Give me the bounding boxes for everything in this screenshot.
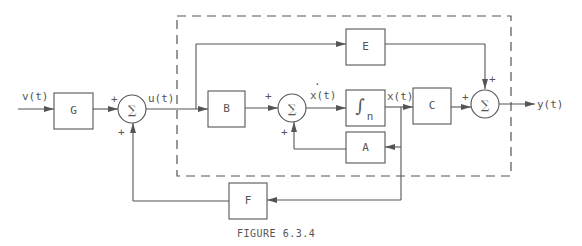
arrowhead — [108, 106, 118, 112]
signal-y: y(t) — [537, 98, 564, 111]
integrator-subscript: n — [367, 110, 374, 123]
arrowhead — [403, 104, 413, 110]
sum2-plus-bottom: + — [281, 126, 288, 139]
arrowhead — [525, 101, 535, 107]
sum1-plus-bottom: + — [118, 126, 125, 139]
arrowhead — [130, 123, 136, 133]
sum2-symbol: ∑ — [288, 102, 297, 116]
signal-x: x(t) — [387, 90, 414, 103]
integrator-symbol: ∫ — [355, 95, 365, 116]
sum3-symbol: ∑ — [481, 98, 490, 112]
block-a-label: A — [362, 141, 369, 154]
figure-caption: FIGURE 6.3.4 — [237, 228, 315, 239]
arrowhead — [268, 105, 278, 111]
block-f-label: F — [245, 194, 252, 207]
block-c-label: C — [429, 99, 436, 112]
block-e-label: E — [362, 40, 369, 53]
arrowhead — [482, 79, 488, 89]
arrowhead — [198, 106, 208, 112]
block-diagram: v(t) G + ∑ + u(t) E + B + ∑ + x(t) · ∫ n… — [0, 0, 582, 246]
arrowhead — [291, 122, 297, 132]
block-g-label: G — [70, 104, 77, 117]
arrowhead — [44, 106, 54, 112]
arrowhead — [267, 197, 277, 203]
sum3-plus-left: + — [462, 91, 469, 104]
sum2-plus-left: + — [265, 90, 272, 103]
signal-xdot-dot: · — [314, 78, 321, 91]
block-b-label: B — [223, 102, 230, 115]
sum1-symbol: ∑ — [128, 103, 137, 117]
arrowhead — [461, 104, 471, 110]
arrowhead — [336, 105, 346, 111]
arrowhead — [336, 41, 346, 47]
sum1-plus-left: + — [111, 93, 118, 106]
signal-v: v(t) — [22, 90, 49, 103]
block-integrator — [346, 90, 385, 126]
sum3-plus-top: + — [489, 73, 496, 86]
signal-u: u(t) — [148, 92, 175, 105]
arrowhead — [385, 144, 395, 150]
